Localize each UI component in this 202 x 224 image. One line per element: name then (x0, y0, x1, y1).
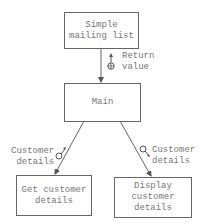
module-display-customer-details: Display customer details (114, 177, 192, 218)
module-main: Main (64, 83, 141, 122)
couple-label-customer-details-left: Customer details (11, 146, 54, 168)
module-get-customer-details: Get customer details (16, 175, 92, 216)
couple-label-return-value: Return value (122, 51, 154, 73)
return-value-couple-icon (108, 53, 114, 69)
customer-details-couple-right-icon (140, 146, 150, 157)
couple-label-customer-details-right: Customer details (152, 145, 195, 167)
connector-main-to-get (55, 121, 84, 174)
module-simple-mailing-list: Simple mailing list (64, 12, 139, 49)
